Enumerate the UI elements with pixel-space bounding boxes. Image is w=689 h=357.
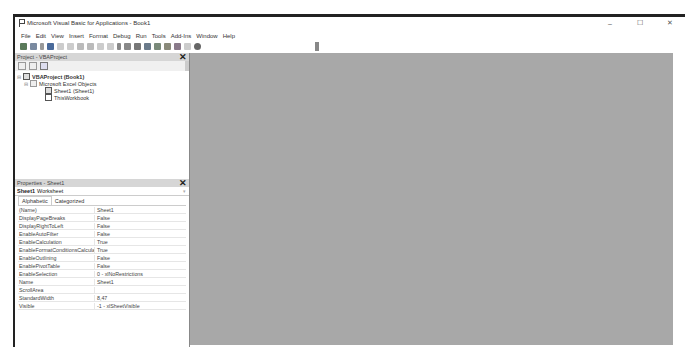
maximize-button[interactable]: ☐ <box>625 17 655 29</box>
property-name: EnableSelection <box>18 271 95 277</box>
property-row[interactable]: Visible-1 - xlSheetVisible <box>18 302 186 310</box>
tree-node-vbaproject[interactable]: ⊟ VBAProject (Book1) <box>17 73 84 80</box>
property-row[interactable]: EnableCalculationTrue <box>18 238 186 246</box>
properties-window-icon[interactable] <box>164 43 171 50</box>
tree-node-thisworkbook[interactable]: ThisWorkbook <box>45 94 89 101</box>
property-name: EnableCalculation <box>18 239 95 245</box>
tab-categorized[interactable]: Categorized <box>52 197 88 205</box>
menu-edit[interactable]: Edit <box>36 33 46 39</box>
copy-icon[interactable] <box>67 43 74 50</box>
tree-label: VBAProject (Book1) <box>32 74 84 80</box>
object-browser-icon[interactable] <box>174 43 181 50</box>
cut-icon[interactable] <box>57 43 64 50</box>
menu-debug[interactable]: Debug <box>113 33 131 39</box>
menu-view[interactable]: View <box>51 33 64 39</box>
property-row[interactable]: DisplayRightToLeftFalse <box>18 222 186 230</box>
property-row[interactable]: (Name)Sheet1 <box>18 206 186 214</box>
property-name: EnableOutlining <box>18 255 95 261</box>
property-value[interactable]: True <box>95 239 108 245</box>
property-row[interactable]: EnableAutoFilterFalse <box>18 230 186 238</box>
menu-file[interactable]: File <box>21 33 31 39</box>
view-excel-icon[interactable] <box>20 43 27 50</box>
property-name: EnableAutoFilter <box>18 231 95 237</box>
menu-tools[interactable]: Tools <box>152 33 166 39</box>
property-value[interactable]: -1 - xlSheetVisible <box>95 303 140 309</box>
property-row[interactable]: DisplayPageBreaksFalse <box>18 214 186 222</box>
property-row[interactable]: ScrollArea <box>18 286 186 294</box>
property-value[interactable]: False <box>95 263 110 269</box>
reset-icon[interactable] <box>134 43 141 50</box>
object-selector[interactable]: Sheet1 Worksheet ▾ <box>15 187 189 196</box>
menu-bar: File Edit View Insert Format Debug Run T… <box>15 31 235 41</box>
standard-toolbar <box>15 41 685 52</box>
collapse-icon[interactable]: ⊟ <box>17 74 21 80</box>
insert-userform-icon[interactable] <box>30 43 37 50</box>
close-button[interactable]: ✕ <box>655 17 685 29</box>
menu-format[interactable]: Format <box>89 33 108 39</box>
property-name: EnablePivotTable <box>18 263 95 269</box>
tab-alphabetic[interactable]: Alphabetic <box>18 196 52 205</box>
object-type: Worksheet <box>37 188 63 194</box>
property-name: ScrollArea <box>18 287 95 293</box>
toggle-folders-icon[interactable] <box>40 62 48 70</box>
tree-node-excel-objects[interactable]: ⊟ Microsoft Excel Objects <box>24 80 96 87</box>
design-mode-icon[interactable] <box>144 43 151 50</box>
find-icon[interactable] <box>87 43 94 50</box>
menu-window[interactable]: Window <box>196 33 217 39</box>
run-icon[interactable] <box>117 43 121 50</box>
property-value[interactable]: False <box>95 223 110 229</box>
property-row[interactable]: EnableOutliningFalse <box>18 254 186 262</box>
project-toolbar <box>15 61 189 71</box>
project-pane-title: Project - VBAProject <box>17 54 67 60</box>
property-name: StandardWidth <box>18 295 95 301</box>
project-pane-header: Project - VBAProject ✕ <box>15 53 189 61</box>
property-value[interactable]: False <box>95 215 110 221</box>
properties-pane: Properties - Sheet1 ✕ Sheet1 Worksheet ▾… <box>15 179 189 310</box>
project-explorer-icon[interactable] <box>154 43 161 50</box>
toolbar-grip-handle[interactable] <box>315 42 319 51</box>
properties-tabs: Alphabetic Categorized <box>15 196 189 205</box>
object-name: Sheet1 <box>17 188 35 194</box>
help-icon[interactable] <box>194 43 201 50</box>
property-value[interactable]: False <box>95 231 110 237</box>
property-value[interactable]: 0 - xlNoRestrictions <box>95 271 143 277</box>
menu-run[interactable]: Run <box>136 33 147 39</box>
property-row[interactable]: EnableFormatConditionsCalculationTrue <box>18 246 186 254</box>
property-name: (Name) <box>18 207 95 213</box>
menu-help[interactable]: Help <box>223 33 235 39</box>
view-code-icon[interactable] <box>18 62 26 70</box>
collapse-icon[interactable]: ⊟ <box>24 81 28 87</box>
minimize-button[interactable]: – <box>595 17 625 29</box>
property-value[interactable]: 8,47 <box>95 295 107 301</box>
menu-add-ins[interactable]: Add-Ins <box>171 33 192 39</box>
property-name: Visible <box>18 303 95 309</box>
properties-grid: (Name)Sheet1 DisplayPageBreaksFalse Disp… <box>18 205 186 310</box>
property-name: DisplayRightToLeft <box>18 223 95 229</box>
property-value[interactable]: Sheet1 <box>95 279 114 285</box>
undo-icon[interactable] <box>97 43 104 50</box>
property-value[interactable]: True <box>95 247 108 253</box>
redo-icon[interactable] <box>107 43 114 50</box>
property-name: Name <box>18 279 95 285</box>
property-row[interactable]: EnablePivotTableFalse <box>18 262 186 270</box>
worksheet-icon <box>45 87 52 94</box>
chevron-down-icon[interactable]: ▾ <box>183 188 186 194</box>
tree-label: Sheet1 (Sheet1) <box>54 88 94 94</box>
properties-pane-title: Properties - Sheet1 <box>17 180 64 186</box>
property-row[interactable]: NameSheet1 <box>18 278 186 286</box>
property-value[interactable]: Sheet1 <box>95 207 114 213</box>
property-row[interactable]: StandardWidth8,47 <box>18 294 186 302</box>
paste-icon[interactable] <box>77 43 84 50</box>
save-icon[interactable] <box>47 43 54 50</box>
break-icon[interactable] <box>124 43 131 50</box>
tree-node-sheet1[interactable]: Sheet1 (Sheet1) <box>45 87 94 94</box>
tree-label: ThisWorkbook <box>54 95 89 101</box>
view-object-icon[interactable] <box>29 62 37 70</box>
dropdown-icon[interactable] <box>40 43 44 50</box>
property-value[interactable]: False <box>95 255 110 261</box>
menu-insert[interactable]: Insert <box>69 33 84 39</box>
mdi-client-area[interactable] <box>190 53 673 345</box>
tree-label: Microsoft Excel Objects <box>39 81 96 87</box>
toolbox-icon[interactable] <box>184 43 191 50</box>
property-row[interactable]: EnableSelection0 - xlNoRestrictions <box>18 270 186 278</box>
